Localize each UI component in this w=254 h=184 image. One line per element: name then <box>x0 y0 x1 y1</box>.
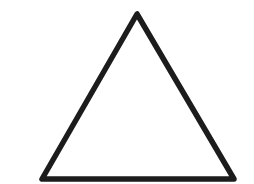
diagram-canvas <box>0 0 254 184</box>
